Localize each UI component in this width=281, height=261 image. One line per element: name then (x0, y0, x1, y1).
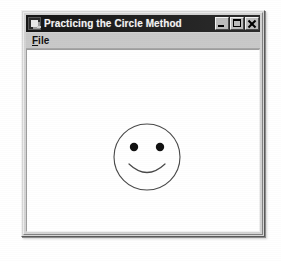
client-drawing-area[interactable] (26, 49, 260, 232)
menu-bar: File (26, 33, 260, 49)
minimize-button[interactable] (215, 17, 229, 30)
face-outline-circle (114, 124, 180, 190)
left-eye-dot (130, 143, 138, 151)
application-icon-glyph (31, 20, 38, 27)
title-bar[interactable]: Practicing the Circle Method (26, 15, 260, 32)
maximize-button[interactable] (230, 17, 244, 30)
scanned-page-background: Practicing the Circle Method File (0, 0, 281, 261)
close-button[interactable] (245, 17, 259, 30)
application-window: Practicing the Circle Method File (21, 10, 265, 237)
application-icon[interactable] (28, 17, 41, 30)
minimize-icon (218, 25, 224, 27)
right-eye-dot (156, 143, 164, 151)
maximize-icon (233, 19, 241, 27)
menu-item-file-label-rest: ile (38, 35, 49, 46)
window-controls (215, 17, 259, 30)
smiley-face-drawing (81, 90, 215, 226)
menu-item-file[interactable]: File (29, 34, 53, 47)
window-inner-frame: Practicing the Circle Method File (23, 12, 263, 235)
window-title: Practicing the Circle Method (44, 18, 211, 29)
